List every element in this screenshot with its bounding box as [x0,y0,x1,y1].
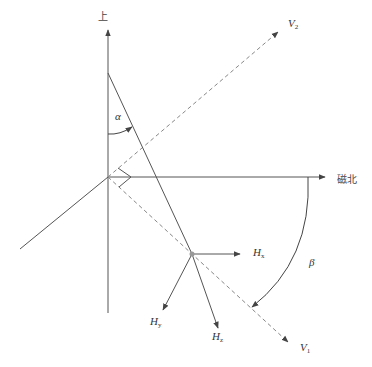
v1-label: V1 [300,341,310,355]
alpha-label: α [115,110,121,122]
hy-vector [163,254,192,310]
diagram-drawing [0,0,372,367]
hy-label-base: H [150,315,158,327]
hz-label-base: H [212,330,220,342]
alpha-arc [108,127,132,134]
hx-label: Hx [253,246,264,260]
v1-label-base: V [300,341,307,353]
v1-label-sub: 1 [307,347,311,355]
sensor-junction-point [190,252,195,257]
hz-vector [192,254,218,328]
hx-label-sub: x [261,252,265,260]
hz-label-sub: z [220,336,223,344]
main-slanted-line [108,73,192,254]
v2-label-sub: 2 [295,23,299,31]
hy-label: Hy [150,315,161,329]
beta-arc [252,177,308,307]
left-diagonal-axis [20,177,108,249]
right-angle-marker-lower [119,177,131,187]
v2-label: V2 [288,17,298,31]
hy-label-sub: y [158,321,162,329]
v2-label-base: V [288,17,295,29]
up-label: 上 [98,8,108,23]
magnetic-north-label: 磁北 [337,171,357,186]
v2-dashed-axis [108,32,278,177]
right-angle-marker-upper [118,168,131,177]
magnetometer-orientation-diagram: 上 磁北 V2 V1 α β Hx Hy Hz [0,0,372,367]
hz-label: Hz [212,330,223,344]
beta-label: β [309,256,314,268]
hx-label-base: H [253,246,261,258]
